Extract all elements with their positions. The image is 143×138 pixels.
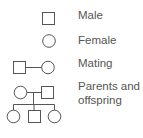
female-circle-icon <box>43 35 56 48</box>
label-parents-line1: Parents and <box>78 80 140 93</box>
label-female: Female <box>78 34 116 47</box>
label-mating: Mating <box>78 57 113 70</box>
pedigree-symbols <box>0 0 143 138</box>
mating-icon <box>14 61 55 74</box>
label-male: Male <box>78 9 103 22</box>
label-parents-line2: offspring <box>78 94 122 107</box>
parents-offspring-icon <box>7 86 61 123</box>
male-square-icon <box>43 13 55 25</box>
